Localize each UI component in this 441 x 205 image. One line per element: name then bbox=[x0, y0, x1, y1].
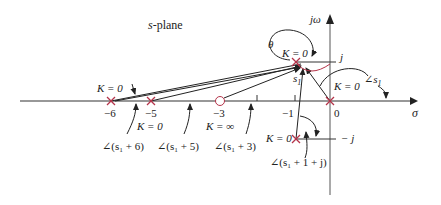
tick-neg1: −1 bbox=[282, 107, 294, 119]
tick-j: j bbox=[338, 51, 343, 63]
k0-origin-label: K = 0 bbox=[333, 80, 360, 92]
angle-s1-plus6-label: ∠(s₁ + 6) bbox=[102, 140, 144, 153]
plane-title: s-plane bbox=[148, 18, 183, 32]
tick-neg5: −5 bbox=[145, 107, 157, 119]
s-plane-diagram: s-plane σ jω −6 −5 −3 −1 0 j − j bbox=[0, 0, 441, 205]
tick-neg-j: − j bbox=[341, 132, 354, 144]
angle-s1-plus1j-label: ∠(s₁ + 1 + j) bbox=[270, 156, 327, 169]
k0-lower-label: K = 0 bbox=[265, 132, 292, 144]
k-inf-label: K = ∞ bbox=[205, 120, 234, 132]
angle-s1-label: ∠s1 bbox=[364, 73, 382, 88]
angle-s1-plus3-label: ∠(s₁ + 3) bbox=[214, 140, 256, 153]
s1-label: s1 bbox=[293, 72, 301, 87]
root-locus-arc bbox=[297, 64, 330, 71]
jomega-label: jω bbox=[308, 13, 321, 25]
k0-upper-label: K = 0 bbox=[281, 47, 308, 59]
theta-label: θ bbox=[268, 38, 274, 50]
k0-left-label: K = 0 bbox=[96, 82, 123, 94]
sigma-label: σ bbox=[412, 106, 419, 120]
tick-zero: 0 bbox=[334, 107, 340, 119]
k0-minus5-label: K = 0 bbox=[136, 120, 163, 132]
tick-neg3: −3 bbox=[213, 107, 225, 119]
tick-neg6: −6 bbox=[104, 107, 116, 119]
zero-neg3 bbox=[216, 97, 225, 106]
angle-s1-plus5-label: ∠(s₁ + 5) bbox=[157, 140, 199, 153]
